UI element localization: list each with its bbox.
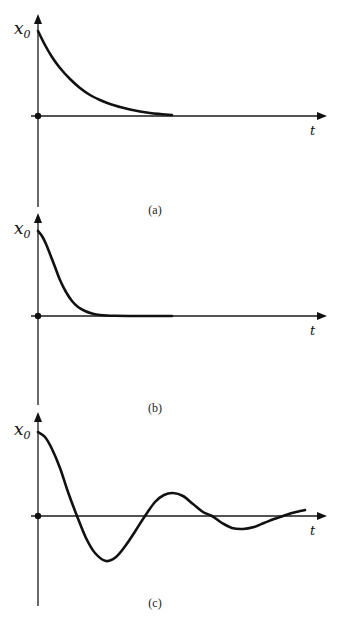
t-axis-arrow-icon: [317, 112, 327, 120]
panel-caption: (a): [148, 203, 161, 217]
displacement-curve: [38, 231, 172, 316]
origin-dot-icon: [35, 113, 41, 119]
panel-caption: (b): [148, 401, 162, 415]
displacement-curve: [38, 31, 172, 115]
displacement-curve: [38, 432, 305, 561]
origin-dot-icon: [35, 313, 41, 319]
damped-oscillation-figure: x0 t (a) x0 t (b) x0 t (c): [0, 0, 338, 623]
y-axis-arrow-icon: [34, 213, 42, 223]
x-label-t: t: [310, 123, 316, 138]
y-label-x0: x0: [14, 18, 31, 41]
panel-b: x0 t (b): [14, 213, 327, 415]
panel-caption: (c): [148, 596, 161, 610]
panel-c: x0 t (c): [14, 412, 327, 610]
y-axis-arrow-icon: [34, 14, 42, 24]
origin-dot-icon: [35, 513, 41, 519]
panel-a: x0 t (a): [14, 14, 327, 217]
t-axis-arrow-icon: [317, 512, 327, 520]
x-label-t: t: [310, 323, 316, 338]
y-label-x0: x0: [14, 218, 31, 241]
t-axis-arrow-icon: [317, 312, 327, 320]
y-label-x0: x0: [14, 419, 31, 442]
y-axis-arrow-icon: [34, 412, 42, 422]
x-label-t: t: [310, 523, 316, 538]
